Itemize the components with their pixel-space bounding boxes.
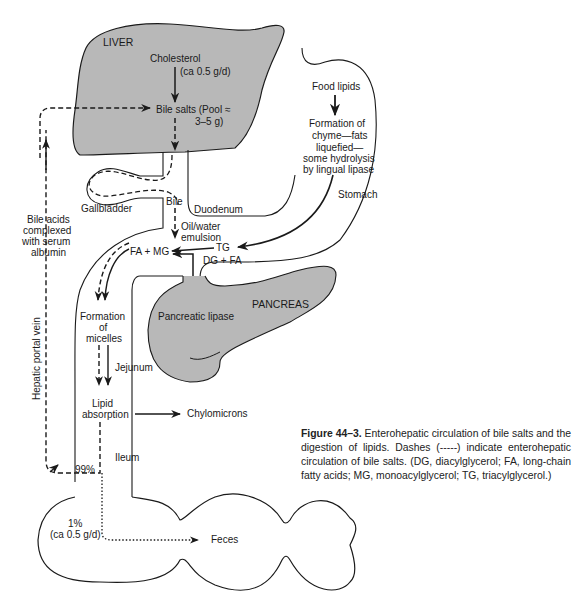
cholesterol-rate-label: (ca 0.5 g/d)	[180, 66, 231, 77]
lipid-absorption-line-2: absorption	[82, 409, 129, 420]
duodenum-label: Duodenum	[194, 204, 243, 215]
ileum-reabsorption-arrow	[50, 465, 58, 472]
tg-to-famg-arrow	[172, 248, 214, 251]
gallbladder-label: Gallbladder	[81, 203, 133, 214]
bile-salts-label: Bile salts (Pool ≈	[156, 104, 231, 115]
chyme-line-3: liquefied—	[316, 142, 363, 153]
bile-acids-line-1: Bile acids	[27, 214, 70, 225]
tg-label: TG	[216, 242, 230, 253]
pct-1-rate-label: (ca 0.5 g/d)	[50, 529, 101, 540]
bile-acids-line-3: with serum	[21, 236, 70, 247]
gallbladder-bile-loop	[89, 155, 178, 205]
colon-outline	[38, 494, 356, 590]
fa-mg-label: FA + MG	[130, 246, 169, 257]
food-lipids-label: Food lipids	[312, 81, 360, 92]
cholesterol-label: Cholesterol	[150, 53, 201, 64]
chyme-line-5: by lingual lipase	[303, 164, 375, 175]
chyme-line-1: Formation of	[309, 118, 365, 129]
micelles-line-3: micelles	[86, 333, 122, 344]
micelles-line-1: Formation	[80, 311, 125, 322]
bile-acids-line-4: albumin	[31, 247, 66, 258]
micelles-line-2: of	[99, 322, 108, 333]
figure-label: Figure 44–3.	[301, 428, 362, 439]
liver-label: LIVER	[103, 36, 134, 48]
pancreas-label: PANCREAS	[252, 298, 309, 310]
bile-label: Bile	[166, 196, 183, 207]
dg-fa-label: DG + FA	[203, 255, 242, 266]
feces-label: Feces	[211, 534, 238, 545]
figure-caption: Figure 44–3. Enterohepatic circulation o…	[301, 427, 571, 483]
oil-water-label: Oil/water	[181, 221, 221, 232]
chyme-line-4: some hydrolysis	[303, 153, 375, 164]
bile-acids-line-2: complexed	[23, 225, 71, 236]
chyme-to-tg-arrow	[238, 175, 333, 247]
ileum-label: Ileum	[115, 452, 139, 463]
pancreas-shape	[148, 266, 336, 382]
lipid-absorption-line-1: Lipid	[92, 398, 113, 409]
jejunum-label: Jejunum	[115, 362, 153, 373]
bile-salts-pool-label: 3–5 g)	[195, 116, 223, 127]
pancreatic-lipase-label: Pancreatic lipase	[158, 311, 235, 322]
chyme-line-2: chyme—fats	[312, 130, 368, 141]
feces-loss-arrow	[102, 473, 198, 540]
portal-return-path	[46, 130, 100, 473]
stomach-label: Stomach	[338, 189, 377, 200]
hepatic-portal-vein-label: Hepatic portal vein	[31, 317, 42, 400]
pct-1-label: 1%	[68, 518, 83, 529]
famg-to-micelles-arrow	[105, 249, 129, 300]
diagram-canvas: LIVER Cholesterol (ca 0.5 g/d) Bile salt…	[0, 0, 585, 606]
pct-99-label: 99%	[75, 464, 95, 475]
chylomicrons-label: Chylomicrons	[187, 408, 248, 419]
